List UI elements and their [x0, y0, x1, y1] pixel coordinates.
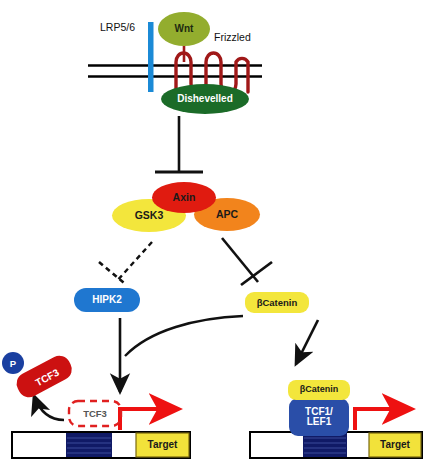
axin-label: Axin: [173, 192, 196, 203]
axin-node[interactable]: Axin: [152, 182, 216, 213]
dna-left-target-node[interactable]: Target: [136, 433, 189, 457]
dishevelled-node[interactable]: Dishevelled: [161, 84, 249, 114]
frizzled-label: Frizzled: [214, 31, 251, 43]
dna-left-target-label: Target: [148, 440, 178, 451]
wnt-label: Wnt: [175, 24, 194, 35]
connector-complex-inhibits-bcatenin: [222, 238, 272, 285]
connector-complex-inhibits-hipk2: [99, 242, 152, 283]
lrp56-receptor: [148, 22, 154, 92]
dna-right-target-node[interactable]: Target: [369, 433, 421, 457]
connector-dsh-inhibits-complex: [155, 116, 203, 172]
phosphate-label-wrap: P: [3, 355, 23, 372]
gsk3-label: GSK3: [135, 210, 164, 221]
bcatenin-nuclear-label: βCatenin: [300, 385, 339, 394]
apc-label: APC: [216, 209, 238, 220]
tcf1-lef1-node[interactable]: TCF1/ LEF1: [289, 398, 349, 436]
bcatenin-label: βCatenin: [257, 298, 298, 308]
transcription-arrow-right: [355, 409, 408, 430]
lrp56-label: LRP5/6: [100, 21, 135, 33]
tcf3-repressor-label: TCF3: [83, 409, 107, 419]
dishevelled-label: Dishevelled: [177, 94, 233, 105]
hipk2-label: HIPK2: [92, 295, 121, 306]
wnt-node[interactable]: Wnt: [158, 12, 210, 46]
pathway-diagram: LRP5/6 Frizzled Wnt Dishevelled GSK3 APC…: [0, 0, 430, 466]
diagram-vector-layer: [0, 0, 430, 466]
tcf3-repressor-node[interactable]: TCF3: [69, 401, 121, 426]
phosphate-label: P: [10, 358, 16, 369]
hipk2-node[interactable]: HIPK2: [74, 288, 140, 312]
connector-tcf3-release: [34, 396, 64, 420]
tcf1-lef1-label-line2: LEF1: [307, 417, 331, 428]
dna-right-target-label: Target: [380, 440, 410, 451]
connector-bcatenin-to-nucleus: [296, 320, 318, 364]
transcription-arrow-left: [120, 409, 175, 430]
connector-bcatenin-curve: [125, 316, 243, 356]
bcatenin-node[interactable]: βCatenin: [245, 292, 309, 313]
bcatenin-nuclear-node[interactable]: βCatenin: [288, 380, 350, 400]
